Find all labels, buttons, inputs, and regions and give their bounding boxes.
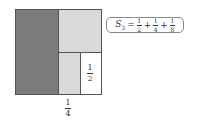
label-one-half: 1 2	[87, 64, 93, 83]
denominator: 4	[154, 27, 158, 33]
region-quarter-shaded	[58, 9, 102, 53]
numerator: 1	[170, 18, 174, 24]
numerator: 1	[154, 18, 158, 24]
equals-sign: =	[127, 20, 135, 30]
term-3: 1 8	[170, 18, 175, 33]
numerator: 1	[137, 18, 141, 24]
label-one-quarter: 1 4	[65, 99, 71, 118]
denominator: 4	[65, 110, 70, 118]
formula-lhs: S3	[115, 19, 125, 31]
denominator: 8	[170, 27, 174, 33]
term-1: 1 2	[137, 18, 142, 33]
partial-sum-formula: S3 = 1 2 + 1 4 + 1 8	[106, 17, 184, 33]
term-2: 1 4	[153, 18, 158, 33]
plus-sign: +	[160, 20, 168, 30]
numerator: 1	[87, 64, 92, 72]
denominator: 2	[137, 27, 141, 33]
denominator: 2	[87, 75, 92, 83]
plus-sign: +	[144, 20, 152, 30]
subscript: 3	[121, 24, 125, 31]
numerator: 1	[65, 99, 70, 107]
region-half-shaded	[15, 9, 59, 95]
region-eighth-shaded	[58, 52, 81, 95]
